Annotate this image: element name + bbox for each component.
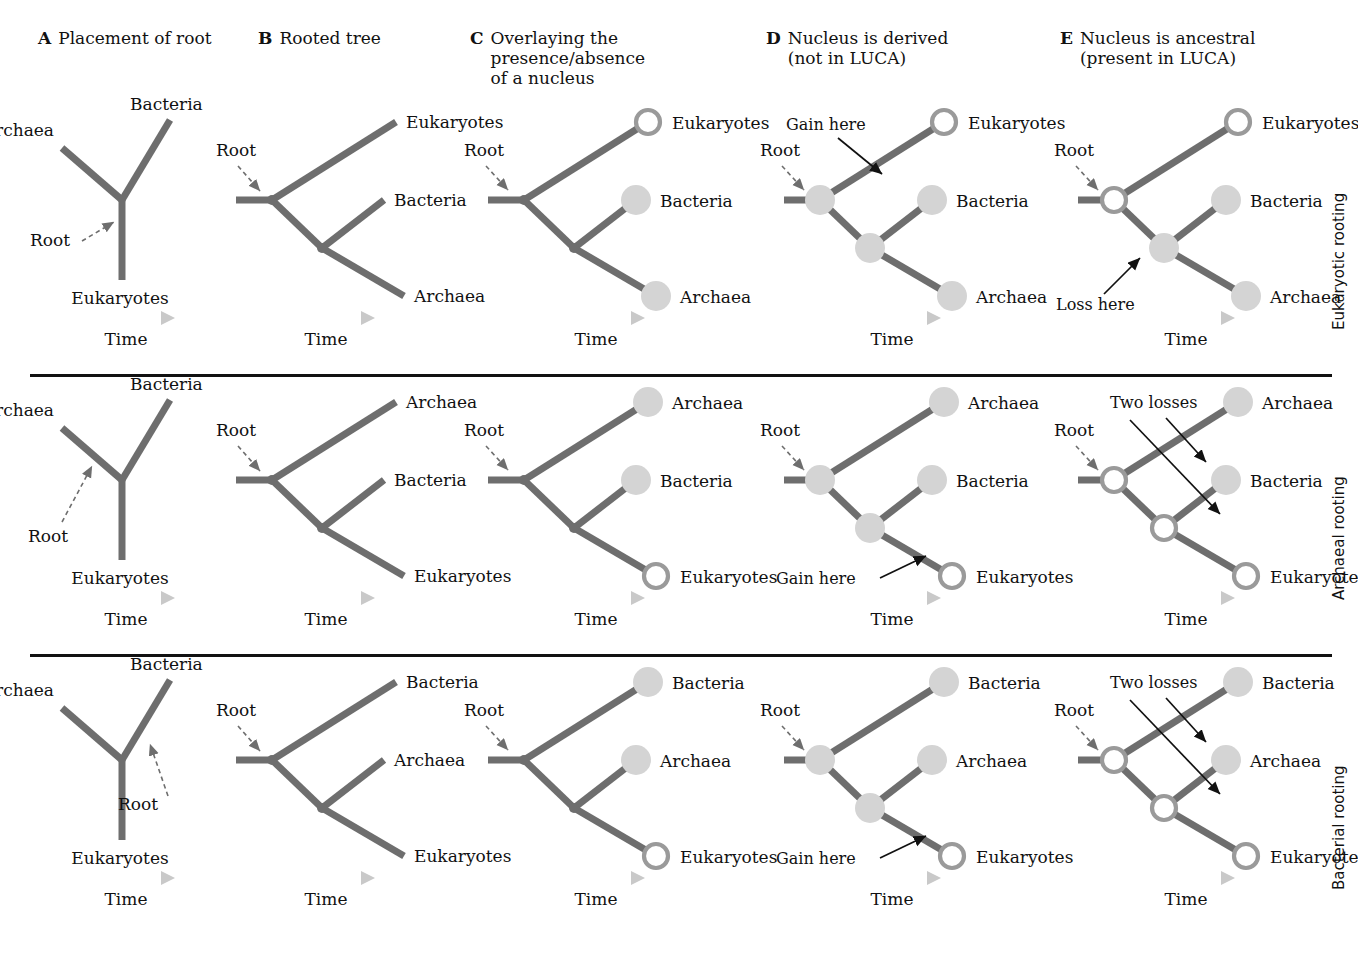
branch-tip-3	[1164, 808, 1246, 856]
panel-a-row2-time-label: Time	[105, 889, 148, 909]
branch-tip-1	[272, 122, 396, 200]
node-internal-no-nucleus	[1149, 233, 1179, 263]
tip-label-1: Archaea	[405, 392, 477, 412]
root-label: Root	[216, 700, 256, 720]
root-label: Root	[760, 140, 800, 160]
tip-node-bacteria-no-nucleus	[621, 185, 651, 215]
node-root	[519, 195, 529, 205]
panel-b-row0-time-arrow-head	[361, 311, 375, 325]
two-losses-pointer-2	[1130, 420, 1220, 514]
tip-label-bacteria: Bacteria	[956, 191, 1029, 211]
tree-diagrams-canvas: ArchaeaBacteriaEukaryotesRootTimeEukaryo…	[0, 0, 1358, 956]
node-root-no-nucleus	[805, 465, 835, 495]
node-root	[267, 475, 277, 485]
tip-label-bacteria: Bacteria	[968, 673, 1041, 693]
node-root-nucleus	[1102, 468, 1126, 492]
root-pointer	[238, 166, 260, 191]
tip-label-bacteria: Bacteria	[1262, 673, 1335, 693]
tip-node-bacteria-no-nucleus	[1211, 185, 1241, 215]
tip-node-eukaryotes-nucleus	[644, 564, 668, 588]
tip-label-archaea: Archaea	[679, 287, 751, 307]
panel-a-row0-time-arrow-head	[161, 311, 175, 325]
tip-label-eukaryotes: Eukaryotes	[968, 113, 1065, 133]
node-internal-no-nucleus	[855, 793, 885, 823]
node-root	[267, 195, 277, 205]
tip-node-bacteria-no-nucleus	[917, 465, 947, 495]
branch-tip-3	[1164, 528, 1246, 576]
branch-internal	[272, 200, 322, 248]
tip-label-archaea: Archaea	[671, 393, 743, 413]
tip-label-archaea: Archaea	[0, 120, 54, 140]
tip-label-bacteria: Bacteria	[130, 94, 203, 114]
branch-archaea	[62, 148, 122, 200]
root-label: Root	[30, 230, 70, 250]
tip-label-eukaryotes: Eukaryotes	[71, 288, 168, 308]
row-eukaryotic-rooting-panel-d: EukaryotesBacteriaArchaeaRootGain hereTi…	[760, 110, 1065, 349]
loss-label: Loss here	[1056, 295, 1135, 314]
tip-label-3: Eukaryotes	[414, 566, 511, 586]
tip-label-archaea: Archaea	[967, 393, 1039, 413]
branch-tip-3	[322, 528, 404, 576]
panel-a-row0-time-label: Time	[105, 329, 148, 349]
tip-label-bacteria: Bacteria	[1250, 191, 1323, 211]
root-label: Root	[216, 420, 256, 440]
tip-label-bacteria: Bacteria	[956, 471, 1029, 491]
root-label: Root	[760, 700, 800, 720]
tip-label-bacteria: Bacteria	[660, 191, 733, 211]
tip-label-eukaryotes: Eukaryotes	[976, 847, 1073, 867]
node-root-no-nucleus	[805, 745, 835, 775]
tip-label-eukaryotes: Eukaryotes	[680, 567, 777, 587]
row-archaeal-rooting-panel-c: ArchaeaBacteriaEukaryotesRootTime	[464, 387, 777, 629]
panel-e-row1-time-label: Time	[1165, 609, 1208, 629]
branch-tip-1	[272, 682, 396, 760]
tip-label-3: Archaea	[413, 286, 485, 306]
gain-label: Gain here	[776, 569, 856, 588]
node-internal-no-nucleus	[855, 233, 885, 263]
panel-e-row2-time-label: Time	[1165, 889, 1208, 909]
panel-c-row1-time-label: Time	[575, 609, 618, 629]
root-pointer	[238, 726, 260, 751]
branch-bacteria	[122, 400, 170, 480]
tip-label-archaea: Archaea	[1249, 751, 1321, 771]
tip-node-archaea-no-nucleus	[1223, 387, 1253, 417]
gain-label: Gain here	[786, 115, 866, 134]
tip-node-archaea-no-nucleus	[929, 387, 959, 417]
node-internal-nucleus	[1152, 516, 1176, 540]
node-root-no-nucleus	[805, 185, 835, 215]
tip-node-archaea-no-nucleus	[1231, 281, 1261, 311]
branch-tip-3	[574, 808, 656, 856]
branch-bacteria	[122, 120, 170, 200]
tip-node-eukaryotes-nucleus	[636, 110, 660, 134]
root-pointer	[782, 166, 804, 190]
tip-label-bacteria: Bacteria	[672, 673, 745, 693]
tip-label-2: Bacteria	[394, 190, 467, 210]
row-eukaryotic-rooting-panel-a: ArchaeaBacteriaEukaryotesRootTime	[0, 94, 203, 349]
node-internal-nucleus	[1152, 796, 1176, 820]
tip-label-bacteria: Bacteria	[660, 471, 733, 491]
tip-node-bacteria-no-nucleus	[1211, 465, 1241, 495]
panel-c-row0-time-label: Time	[575, 329, 618, 349]
branch-tip-2	[322, 760, 384, 808]
root-label: Root	[760, 420, 800, 440]
branch-bacteria	[122, 680, 170, 760]
root-label: Root	[1054, 140, 1094, 160]
tip-node-archaea-no-nucleus	[917, 745, 947, 775]
tip-label-2: Archaea	[393, 750, 465, 770]
tip-label-archaea: Archaea	[0, 400, 54, 420]
root-label: Root	[464, 140, 504, 160]
node-internal	[317, 523, 327, 533]
root-label: Root	[216, 140, 256, 160]
root-label: Root	[1054, 420, 1094, 440]
tip-label-eukaryotes: Eukaryotes	[1262, 113, 1358, 133]
tip-label-eukaryotes: Eukaryotes	[680, 847, 777, 867]
branch-internal	[524, 480, 574, 528]
gain-label: Gain here	[776, 849, 856, 868]
row-eukaryotic-rooting-panel-c: EukaryotesBacteriaArchaeaRootTime	[464, 110, 769, 349]
branch-tip-2	[322, 480, 384, 528]
row-bacterial-rooting-panel-d: BacteriaArchaeaEukaryotesRootGain hereTi…	[760, 667, 1073, 909]
gain-pointer	[880, 556, 926, 578]
row-archaeal-rooting-panel-e: ArchaeaBacteriaEukaryotesRootTwo lossesT…	[1054, 387, 1358, 629]
figure-root: A Placement of root B Rooted tree C Over…	[0, 0, 1358, 956]
panel-d-row0-time-arrow-head	[927, 311, 941, 325]
tip-node-eukaryotes-nucleus	[1234, 564, 1258, 588]
